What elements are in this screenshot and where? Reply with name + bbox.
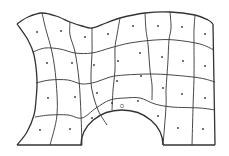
mesh-row-lines <box>33 40 215 119</box>
mesh-node <box>74 96 76 98</box>
mesh-node <box>157 115 159 117</box>
diagram-canvas: Structured quadrilateral mesh with semic… <box>0 0 229 156</box>
right-boundary <box>213 24 215 145</box>
mesh-node <box>181 93 183 95</box>
mesh-node <box>46 62 48 64</box>
mesh-node <box>69 128 71 130</box>
mesh-node <box>204 65 206 67</box>
mesh-node <box>71 62 73 64</box>
mesh-node <box>181 26 183 28</box>
mesh-node <box>157 25 159 27</box>
mesh-node <box>39 129 41 131</box>
mesh-node <box>36 31 38 33</box>
mesh-node <box>177 127 179 129</box>
mesh-diagram: O <box>0 0 229 156</box>
top-boundary <box>17 12 213 28</box>
mesh-node <box>93 64 95 66</box>
mesh-node <box>84 36 86 38</box>
mesh-node <box>140 75 142 77</box>
mesh-column-line <box>145 13 152 100</box>
mesh-column-line <box>163 12 171 145</box>
mesh-node <box>117 60 119 62</box>
mesh-node <box>47 97 49 99</box>
mesh-node <box>60 30 62 32</box>
mesh-node <box>111 102 113 104</box>
mesh-node <box>116 80 118 82</box>
mesh-node <box>91 117 93 119</box>
mesh-column-line <box>112 18 120 110</box>
mesh-node <box>137 100 139 102</box>
mesh-node <box>162 87 164 89</box>
arc-center-annotation: O <box>120 103 124 109</box>
mesh-node <box>182 60 184 62</box>
mesh-node <box>204 33 206 35</box>
mesh-node <box>132 25 134 27</box>
mesh-node <box>96 92 98 94</box>
mesh-row-line <box>35 97 215 118</box>
left-boundary <box>17 24 37 145</box>
mesh-node <box>107 33 109 35</box>
mesh-node <box>139 52 141 54</box>
mesh-column-line <box>42 13 57 145</box>
mesh-row-line <box>36 74 215 84</box>
mesh-node <box>161 56 163 58</box>
mesh-node <box>204 97 206 99</box>
mesh-column-line <box>192 15 195 145</box>
annotation-label: O <box>120 103 124 109</box>
mesh-node <box>202 128 204 130</box>
mesh-column-lines <box>42 12 195 145</box>
semicircle-hole-boundary <box>81 110 163 145</box>
mesh-row-line <box>33 40 214 54</box>
